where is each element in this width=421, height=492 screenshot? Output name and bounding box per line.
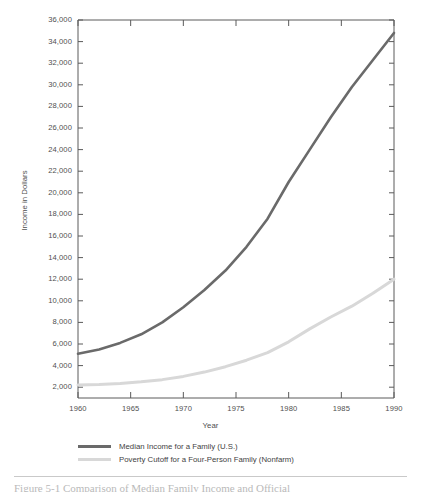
y-tick-label: 14,000	[32, 254, 72, 262]
y-tick-label: 36,000	[32, 16, 72, 24]
x-tick-label: 1985	[321, 405, 361, 413]
chart-series-layer	[78, 33, 394, 385]
figure-caption: Figure 5-1 Comparison of Median Family I…	[14, 482, 414, 492]
y-tick-label: 26,000	[32, 124, 72, 132]
x-axis-ticks-top	[78, 20, 394, 26]
y-tick-label: 18,000	[32, 210, 72, 218]
y-tick-label: 30,000	[32, 81, 72, 89]
legend-item-poverty-cutoff: Poverty Cutoff for a Four-Person Family …	[0, 453, 421, 466]
y-tick-label: 22,000	[32, 167, 72, 175]
y-tick-label: 20,000	[32, 189, 72, 197]
y-tick-label: 32,000	[32, 59, 72, 67]
legend-item-median-income: Median Income for a Family (U.S.)	[0, 440, 421, 453]
y-tick-label: 8,000	[32, 318, 72, 326]
y-tick-label: 24,000	[32, 146, 72, 154]
y-tick-label: 12,000	[32, 275, 72, 283]
x-axis-ticks-bottom	[78, 392, 394, 398]
legend-swatch-poverty-cutoff	[78, 458, 111, 461]
x-tick-label: 1960	[58, 405, 98, 413]
chart-legend: Median Income for a Family (U.S.) Povert…	[0, 440, 421, 466]
y-axis-ticks-right	[389, 20, 394, 387]
legend-swatch-median-income	[78, 445, 111, 448]
y-axis-title: Income in Dollars	[20, 131, 29, 271]
x-tick-label: 1980	[269, 405, 309, 413]
x-tick-label: 1975	[216, 405, 256, 413]
figure-5-1: 2,0004,0006,0008,00010,00012,00014,00016…	[0, 0, 421, 492]
x-tick-label: 1970	[163, 405, 203, 413]
y-tick-label: 10,000	[32, 297, 72, 305]
y-tick-label: 4,000	[32, 362, 72, 370]
y-tick-label: 34,000	[32, 38, 72, 46]
y-tick-label: 6,000	[32, 340, 72, 348]
legend-label-median-income: Median Income for a Family (U.S.)	[119, 442, 238, 451]
x-tick-label: 1990	[374, 405, 414, 413]
caption-divider	[14, 476, 407, 477]
y-tick-label: 28,000	[32, 102, 72, 110]
chart-plot-area: 2,0004,0006,0008,00010,00012,00014,00016…	[0, 0, 421, 440]
legend-label-poverty-cutoff: Poverty Cutoff for a Four-Person Family …	[119, 455, 294, 464]
x-axis-title: Year	[0, 421, 421, 430]
y-tick-label: 16,000	[32, 232, 72, 240]
y-tick-label: 2,000	[32, 383, 72, 391]
x-tick-label: 1965	[111, 405, 151, 413]
y-axis-ticks-left	[78, 20, 83, 387]
